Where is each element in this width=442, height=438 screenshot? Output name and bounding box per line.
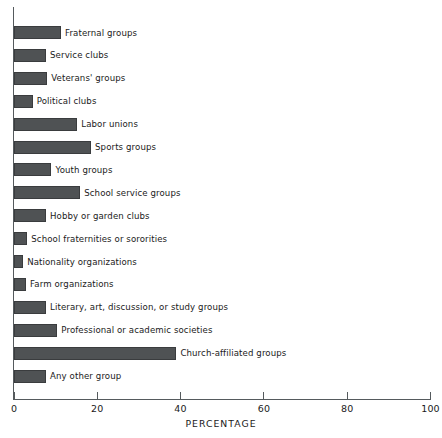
bar-row: Nationality organizations	[14, 255, 442, 268]
bar	[14, 49, 46, 62]
bar-label: School service groups	[84, 188, 180, 198]
bar	[14, 347, 176, 360]
bar-row: Church-affiliated groups	[14, 347, 442, 360]
bar	[14, 72, 47, 85]
bar	[14, 118, 77, 131]
x-axis-title: PERCENTAGE	[0, 418, 442, 429]
bar-row: Fraternal groups	[14, 26, 442, 39]
x-tick-0	[13, 392, 14, 400]
bar-label: School fraternities or sororities	[31, 234, 167, 244]
bar	[14, 278, 26, 291]
bar-label: Sports groups	[95, 142, 156, 152]
bar-row: Hobby or garden clubs	[14, 209, 442, 222]
bar-row: Sports groups	[14, 141, 442, 154]
bar	[14, 209, 46, 222]
bar-label: Hobby or garden clubs	[50, 211, 150, 221]
x-tick-label-20: 20	[91, 403, 104, 414]
bar	[14, 232, 27, 245]
x-tick-100	[430, 392, 431, 400]
bar	[14, 255, 23, 268]
bar	[14, 370, 46, 383]
bar-row: Farm organizations	[14, 278, 442, 291]
bar-label: Nationality organizations	[27, 257, 137, 267]
bar-row: Literary, art, discussion, or study grou…	[14, 301, 442, 314]
bar-row: School fraternities or sororities	[14, 232, 442, 245]
bar-row: Political clubs	[14, 95, 442, 108]
x-tick-label-80: 80	[341, 403, 354, 414]
bar	[14, 26, 61, 39]
bar-label: Literary, art, discussion, or study grou…	[50, 302, 228, 312]
bar-label: Political clubs	[37, 96, 97, 106]
x-tick-60	[263, 392, 264, 400]
x-tick-label-100: 100	[421, 403, 440, 414]
bar-row: School service groups	[14, 186, 442, 199]
x-tick-80	[347, 392, 348, 400]
plot-area: Fraternal groupsService clubsVeterans' g…	[0, 0, 442, 400]
bar	[14, 141, 91, 154]
bar-label: Professional or academic societies	[61, 325, 212, 335]
bar	[14, 301, 46, 314]
x-tick-label-60: 60	[258, 403, 271, 414]
bar-label: Veterans' groups	[51, 73, 125, 83]
bar	[14, 186, 80, 199]
bar	[14, 324, 57, 337]
x-tick-40	[180, 392, 181, 400]
bar-label: Youth groups	[55, 165, 112, 175]
bar	[14, 95, 33, 108]
horizontal-bar-chart: Fraternal groupsService clubsVeterans' g…	[0, 0, 442, 438]
x-tick-label-40: 40	[174, 403, 187, 414]
bar-label: Any other group	[50, 371, 121, 381]
bar-label: Fraternal groups	[65, 28, 137, 38]
bar-row: Professional or academic societies	[14, 324, 442, 337]
bar-row: Veterans' groups	[14, 72, 442, 85]
bar	[14, 163, 51, 176]
bar-label: Labor unions	[81, 119, 138, 129]
bar-row: Any other group	[14, 370, 442, 383]
x-tick-20	[97, 392, 98, 400]
bar-row: Service clubs	[14, 49, 442, 62]
bar-label: Farm organizations	[30, 279, 114, 289]
bar-row: Labor unions	[14, 118, 442, 131]
x-tick-label-0: 0	[11, 403, 17, 414]
bar-label: Church-affiliated groups	[180, 348, 286, 358]
bar-label: Service clubs	[50, 50, 108, 60]
bars-layer: Fraternal groupsService clubsVeterans' g…	[0, 0, 442, 400]
bar-row: Youth groups	[14, 163, 442, 176]
